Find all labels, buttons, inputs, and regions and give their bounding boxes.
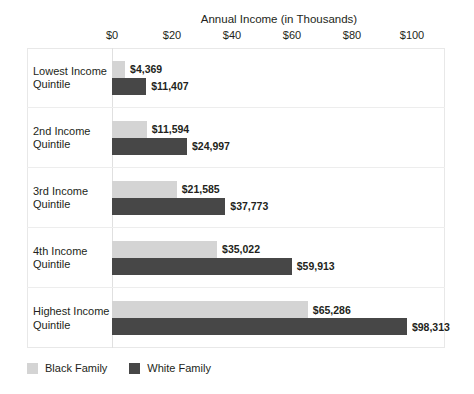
bar-white-family	[112, 138, 187, 155]
chart-legend: Black FamilyWhite Family	[27, 361, 233, 375]
bar-white-family	[112, 318, 407, 335]
category-label: 2nd IncomeQuintile	[33, 124, 113, 151]
category-row: 2nd IncomeQuintile$11,594$24,997	[27, 108, 445, 168]
bar-value-label: $11,407	[146, 80, 188, 92]
bar-value-label: $37,773	[225, 200, 268, 212]
bar-value-label: $4,369	[125, 63, 162, 75]
x-tick-20: $20	[163, 29, 181, 41]
bar-value-label: $11,594	[147, 123, 189, 135]
bar-value-label: $35,022	[217, 243, 260, 255]
legend-item[interactable]: Black Family	[27, 362, 107, 374]
bar-value-label: $98,313	[407, 321, 450, 333]
x-tick-60: $60	[283, 29, 301, 41]
bar-value-label: $59,913	[292, 260, 335, 272]
legend-label: Black Family	[45, 362, 107, 374]
legend-swatch-icon	[27, 363, 38, 374]
category-label: Lowest IncomeQuintile	[33, 64, 113, 91]
x-axis-tick-labels: $0$20$40$60$80$100	[0, 29, 474, 45]
chart-title: Annual Income (in Thousands)	[112, 13, 446, 25]
legend-swatch-icon	[129, 363, 140, 374]
category-row: Lowest IncomeQuintile$4,369$11,407	[27, 48, 445, 108]
income-quintile-bar-chart: Annual Income (in Thousands) $0$20$40$60…	[0, 0, 474, 394]
x-tick-0: $0	[106, 29, 118, 41]
legend-label: White Family	[147, 362, 211, 374]
category-label: Highest IncomeQuintile	[33, 305, 113, 332]
bar-white-family	[112, 78, 146, 95]
category-row: 3rd IncomeQuintile$21,585$37,773	[27, 168, 445, 228]
x-tick-100: $100	[400, 29, 424, 41]
bar-value-label: $65,286	[308, 304, 351, 316]
bar-black-family	[112, 61, 125, 78]
bar-value-label: $21,585	[177, 183, 220, 195]
x-tick-80: $80	[343, 29, 361, 41]
x-tick-40: $40	[223, 29, 241, 41]
bar-black-family	[112, 301, 308, 318]
bar-value-label: $24,997	[187, 140, 230, 152]
bar-white-family	[112, 258, 292, 275]
legend-item[interactable]: White Family	[129, 362, 211, 374]
category-label: 3rd IncomeQuintile	[33, 184, 113, 211]
category-row: Highest IncomeQuintile$65,286$98,313	[27, 288, 445, 348]
bar-black-family	[112, 121, 147, 138]
bar-black-family	[112, 181, 177, 198]
category-label: 4th IncomeQuintile	[33, 244, 113, 271]
category-row: 4th IncomeQuintile$35,022$59,913	[27, 228, 445, 288]
bar-black-family	[112, 241, 217, 258]
bar-white-family	[112, 198, 225, 215]
